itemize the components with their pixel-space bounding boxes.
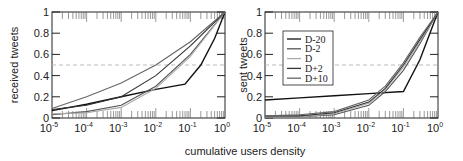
x-tick-label: 10-3 bbox=[322, 121, 341, 134]
series-dplus10 bbox=[52, 12, 225, 109]
y-tick-label: 0.8 bbox=[34, 27, 49, 39]
x-tick-label: 10-4 bbox=[74, 121, 93, 134]
y-tick-label: 0.6 bbox=[34, 48, 49, 60]
chart-figure: 00.20.40.60.8110-510-410-310-210-1100rec… bbox=[0, 0, 463, 161]
y-axis-label: received tweets bbox=[8, 26, 20, 103]
x-tick-label: 100 bbox=[427, 121, 443, 134]
series-dplus2 bbox=[52, 12, 225, 110]
x-tick-label: 10-1 bbox=[391, 121, 410, 134]
series-d bbox=[52, 12, 225, 114]
x-tick-label: 10-5 bbox=[253, 121, 272, 134]
legend: D-20D-2DD+2D+10 bbox=[283, 31, 333, 85]
x-tick-label: 10-3 bbox=[109, 121, 128, 134]
y-tick-label: 0.2 bbox=[34, 91, 49, 103]
received-tweets-panel: 00.20.40.60.8110-510-410-310-210-1100rec… bbox=[8, 6, 230, 134]
x-tick-label: 10-1 bbox=[178, 121, 197, 134]
y-tick-label: 0.4 bbox=[34, 70, 49, 82]
x-tick-label: 100 bbox=[214, 121, 230, 134]
x-tick-label: 10-2 bbox=[144, 121, 163, 134]
y-tick-label: 1 bbox=[256, 6, 262, 18]
y-axis-label: sent tweets bbox=[237, 37, 249, 93]
x-tick-label: 10-5 bbox=[40, 121, 59, 134]
legend-label: D+10 bbox=[305, 73, 328, 84]
x-tick-label: 10-4 bbox=[287, 121, 306, 134]
sent-tweets-panel: 00.20.40.60.8110-510-410-310-210-1100sen… bbox=[237, 6, 443, 134]
x-tick-label: 10-2 bbox=[357, 121, 376, 134]
y-tick-label: 1 bbox=[43, 6, 49, 18]
x-axis-label: cumulative users density bbox=[185, 145, 306, 157]
